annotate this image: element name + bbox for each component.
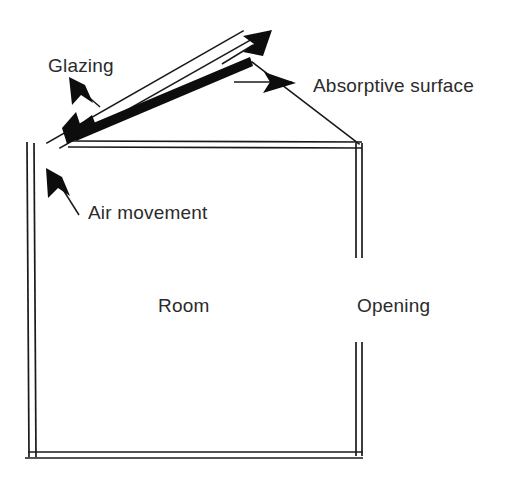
outlet-arrow-icon xyxy=(243,30,272,56)
ceiling-upper-line xyxy=(68,141,362,142)
right-wall-upper xyxy=(356,143,362,258)
room-inflow-arrow-icon xyxy=(46,168,70,198)
air-movement-label: Air movement xyxy=(88,202,208,223)
ceiling xyxy=(68,141,362,148)
glazing-annotation: Glazing xyxy=(48,55,114,107)
ceiling-lower-line xyxy=(68,147,362,148)
absorptive-surface-label: Absorptive surface xyxy=(313,75,474,96)
room-section-diagram: Glazing Absorptive surface Air movement … xyxy=(0,0,516,482)
glazing-label: Glazing xyxy=(48,55,114,76)
left-wall-inner-line xyxy=(34,143,36,457)
floor xyxy=(25,452,363,458)
absorptive-surface-annotation: Absorptive surface xyxy=(234,72,474,96)
room-label: Room xyxy=(158,295,209,316)
left-wall xyxy=(27,142,36,457)
glazing-arrow-icon xyxy=(69,77,93,105)
opening-label: Opening xyxy=(357,295,430,316)
right-wall-lower xyxy=(356,342,362,456)
diagram-canvas: Glazing Absorptive surface Air movement … xyxy=(0,0,516,482)
left-wall-outer-line xyxy=(27,142,29,457)
